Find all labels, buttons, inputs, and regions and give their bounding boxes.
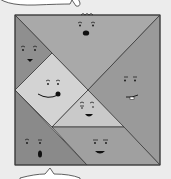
tangram-figure [0,0,171,179]
bottom-speech-bubble [20,168,80,179]
tangram-pieces [15,15,160,165]
top-speech-bubble [0,0,80,6]
